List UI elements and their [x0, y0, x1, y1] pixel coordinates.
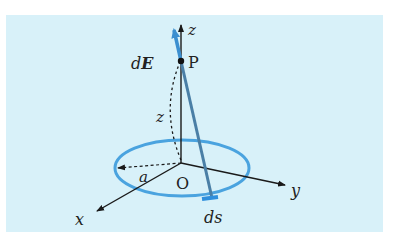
point-p-label: P [188, 53, 199, 72]
point-p [178, 58, 184, 64]
radius-label: a [139, 168, 148, 186]
y-axis-label: y [290, 181, 301, 200]
ring-field-diagram: z P dE z a O y x ds [0, 0, 397, 248]
x-axis-label: x [75, 210, 84, 229]
ds-label: ds [204, 208, 222, 227]
de-label-e: E [140, 54, 154, 73]
origin-label: O [176, 174, 189, 193]
z-axis-label: z [187, 21, 196, 39]
de-label-d: d [131, 54, 141, 73]
de-label: dE [131, 54, 154, 73]
ds-element [202, 197, 218, 199]
height-label: z [155, 108, 164, 126]
